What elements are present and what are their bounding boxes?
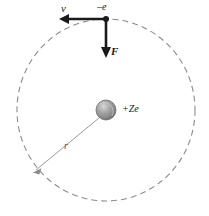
figure-canvas: [0, 0, 209, 216]
bohr-atom-figure: v –e F +Ze r: [0, 0, 209, 216]
velocity-arrowhead-icon: [59, 14, 69, 24]
force-arrowhead-icon: [101, 47, 111, 58]
nucleus-charge-label: +Ze: [122, 104, 139, 114]
velocity-label: v: [61, 3, 66, 14]
electron-charge-label: –e: [97, 2, 106, 12]
electron-dot: [103, 16, 109, 22]
radius-label: r: [64, 141, 68, 151]
force-label: F: [111, 46, 118, 57]
